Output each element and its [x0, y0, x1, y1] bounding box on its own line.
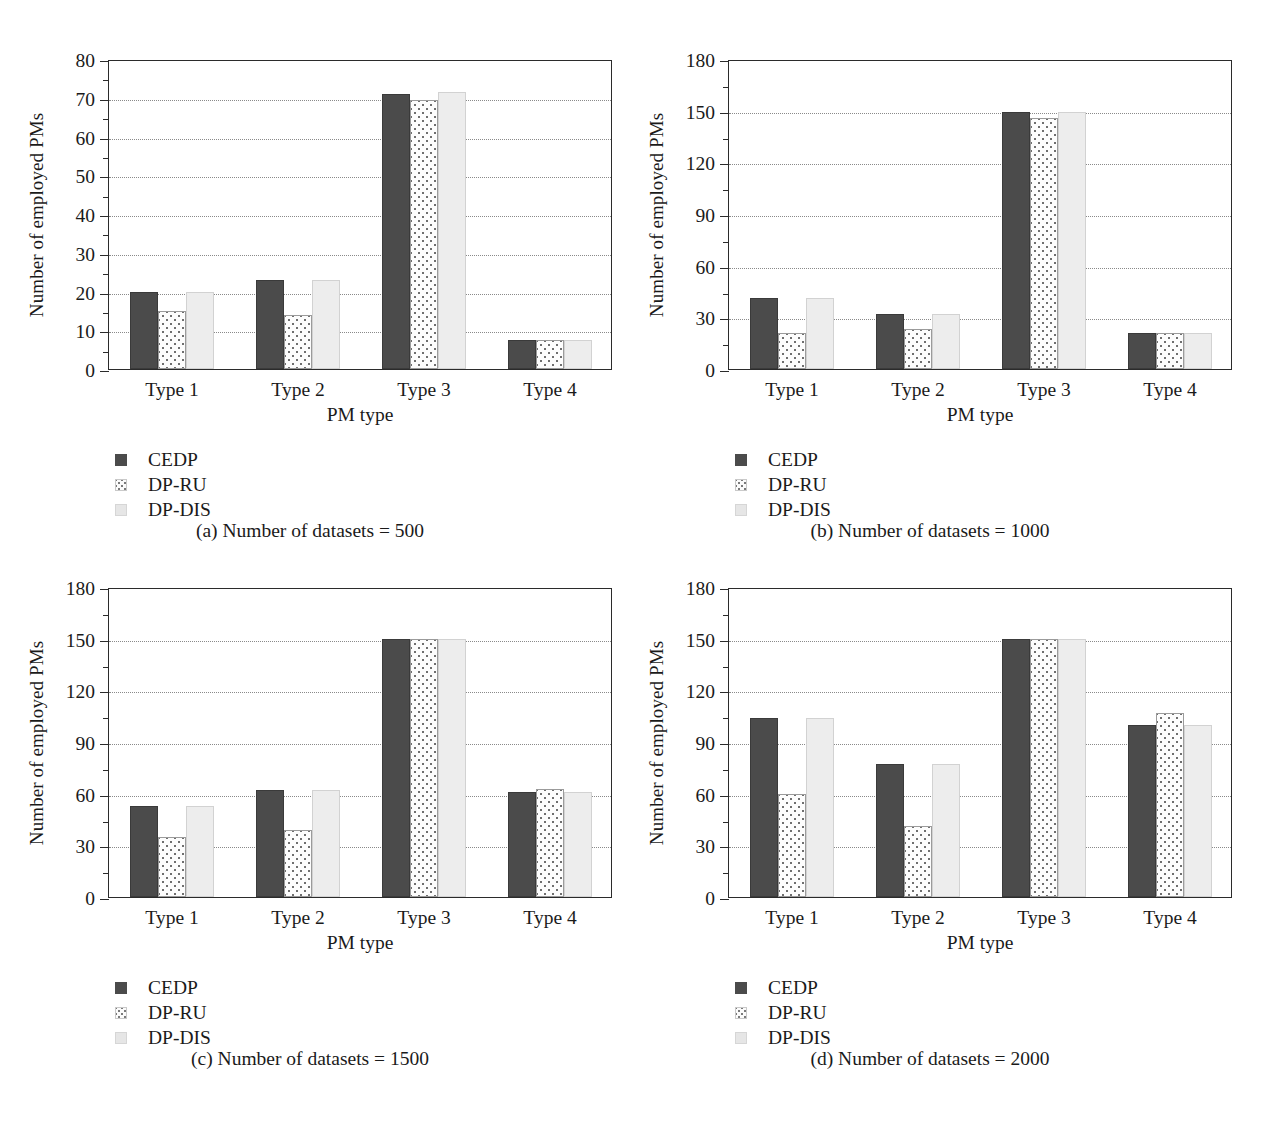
- legend-item-dp-dis: DP-DIS: [735, 497, 831, 522]
- y-axis-tick: [100, 796, 109, 797]
- solid-dark-grey-swatch: [115, 982, 127, 994]
- y-axis-tick: [100, 589, 109, 590]
- bar-group-type-3: [1002, 589, 1086, 897]
- x-axis-tick-label: Type 2: [271, 907, 324, 929]
- y-axis-tick-label: 120: [686, 153, 715, 175]
- bar-dp-dis-type-2: [932, 314, 960, 369]
- legend-item-dp-ru: DP-RU: [735, 1000, 831, 1025]
- bar-cedp-type-2: [256, 280, 284, 369]
- panel-caption-a: (a) Number of datasets = 500: [0, 520, 620, 542]
- legend-item-label: DP-RU: [148, 474, 207, 496]
- y-axis-tick-label: 20: [76, 283, 96, 305]
- bar-cedp-type-1: [750, 718, 778, 897]
- legend-item-cedp: CEDP: [115, 447, 211, 472]
- x-axis-tick-label: Type 1: [765, 907, 818, 929]
- bar-cedp-type-1: [130, 292, 158, 370]
- x-axis-tick-label: Type 4: [523, 379, 576, 401]
- legend-item-dp-dis: DP-DIS: [735, 1025, 831, 1050]
- legend-item-label: DP-DIS: [768, 1027, 831, 1049]
- y-axis-tick-label: 0: [705, 888, 715, 910]
- legend-item-dp-ru: DP-RU: [115, 472, 211, 497]
- y-axis-tick: [100, 100, 109, 101]
- x-axis-title: PM type: [728, 932, 1232, 954]
- y-axis-tick-label: 150: [686, 630, 715, 652]
- bar-dp-ru-type-2: [904, 329, 932, 369]
- y-axis-tick-label: 180: [686, 578, 715, 600]
- bar-dp-ru-type-1: [778, 333, 806, 369]
- y-axis-tick-label: 90: [696, 733, 716, 755]
- y-axis-tick: [100, 847, 109, 848]
- plot-area-c: 0306090120150180Type 1Type 2Type 3Type 4: [108, 588, 612, 898]
- y-axis-tick: [100, 332, 109, 333]
- y-axis-tick-label: 60: [696, 257, 716, 279]
- x-axis-title: PM type: [108, 404, 612, 426]
- bar-dp-ru-type-3: [1030, 118, 1058, 369]
- y-axis-tick: [100, 899, 109, 900]
- y-axis-tick-label: 90: [696, 205, 716, 227]
- dotted-pattern-swatch: [115, 1007, 127, 1019]
- y-axis-tick: [100, 294, 109, 295]
- bar-groups: [729, 589, 1231, 897]
- bar-dp-ru-type-4: [536, 340, 564, 369]
- bar-group-type-4: [1128, 61, 1212, 369]
- bar-dp-dis-type-3: [438, 639, 466, 897]
- panel-caption-c: (c) Number of datasets = 1500: [0, 1048, 620, 1070]
- bar-dp-ru-type-3: [410, 639, 438, 897]
- y-axis-tick-label: 30: [696, 836, 716, 858]
- x-axis-tick-label: Type 1: [145, 379, 198, 401]
- y-axis-title: Number of employed PMs: [646, 588, 668, 898]
- bar-dp-dis-type-3: [1058, 112, 1086, 369]
- bar-cedp-type-1: [750, 298, 778, 369]
- y-axis-tick: [100, 255, 109, 256]
- y-axis-title: Number of employed PMs: [646, 60, 668, 370]
- bar-group-type-1: [130, 589, 214, 897]
- bar-group-type-2: [876, 61, 960, 369]
- y-axis-tick: [100, 744, 109, 745]
- bar-dp-dis-type-1: [806, 298, 834, 369]
- legend-item-label: DP-DIS: [148, 1027, 211, 1049]
- legend-item-label: DP-DIS: [148, 499, 211, 521]
- bar-dp-ru-type-4: [536, 789, 564, 898]
- legend-item-cedp: CEDP: [735, 975, 831, 1000]
- x-axis-tick-label: Type 4: [523, 907, 576, 929]
- bar-dp-ru-type-1: [158, 837, 186, 897]
- y-axis-tick: [720, 899, 729, 900]
- bar-dp-ru-type-3: [410, 100, 438, 369]
- x-axis-tick-label: Type 2: [271, 379, 324, 401]
- x-axis-title: PM type: [728, 404, 1232, 426]
- y-axis-tick-label: 10: [76, 321, 96, 343]
- bar-cedp-type-4: [508, 340, 536, 369]
- x-axis-tick-label: Type 1: [765, 379, 818, 401]
- y-axis-tick: [720, 692, 729, 693]
- bar-dp-ru-type-4: [1156, 333, 1184, 369]
- y-axis-title: Number of employed PMs: [26, 588, 48, 898]
- legend: CEDPDP-RUDP-DIS: [735, 447, 831, 522]
- bar-dp-dis-type-1: [806, 718, 834, 897]
- light-grey-swatch: [115, 1032, 127, 1044]
- y-axis-tick-label: 150: [686, 102, 715, 124]
- y-axis-tick: [100, 177, 109, 178]
- bar-group-type-4: [508, 61, 592, 369]
- y-axis-tick: [720, 216, 729, 217]
- bar-group-type-3: [382, 61, 466, 369]
- bar-groups: [729, 61, 1231, 369]
- y-axis-tick-label: 40: [76, 205, 96, 227]
- legend-item-label: DP-RU: [768, 1002, 827, 1024]
- y-axis-tick-label: 60: [76, 128, 96, 150]
- y-axis-tick: [720, 113, 729, 114]
- bar-dp-ru-type-2: [284, 830, 312, 897]
- y-axis-tick-label: 30: [696, 308, 716, 330]
- y-axis-tick: [720, 268, 729, 269]
- y-axis-tick: [720, 744, 729, 745]
- bar-dp-ru-type-2: [284, 315, 312, 369]
- bar-group-type-4: [508, 589, 592, 897]
- bar-dp-dis-type-3: [438, 92, 466, 369]
- y-axis-tick: [100, 641, 109, 642]
- y-axis-tick-label: 120: [66, 681, 95, 703]
- legend-item-dp-dis: DP-DIS: [115, 497, 211, 522]
- figure-multi-panel-bar-charts: Number of employed PMs01020304050607080T…: [0, 0, 1276, 1141]
- x-axis-tick-label: Type 3: [1017, 907, 1070, 929]
- y-axis-tick: [100, 692, 109, 693]
- legend-item-label: CEDP: [148, 449, 198, 471]
- bar-group-type-2: [256, 589, 340, 897]
